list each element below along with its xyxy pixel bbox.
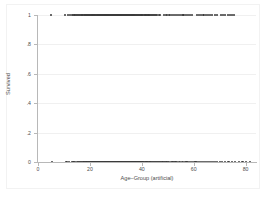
gridline-y-1 <box>38 133 256 134</box>
gridline-y-2 <box>38 103 256 104</box>
y-tick-label-3: .6 <box>9 71 31 77</box>
x-tick-label-4: 80 <box>236 166 256 172</box>
x-tick-label-1: 20 <box>80 166 100 172</box>
gridline-y-4 <box>38 44 256 45</box>
y-tick-mark-4 <box>34 44 37 45</box>
x-tick-label-3: 60 <box>184 166 204 172</box>
y-axis-title: Survived <box>5 49 11 119</box>
y-tick-mark-2 <box>34 103 37 104</box>
plot-area <box>38 15 256 162</box>
y-axis-line <box>37 15 38 163</box>
y-tick-mark-5 <box>34 15 37 16</box>
y-tick-label-4: .8 <box>9 41 31 47</box>
gridline-y-3 <box>38 74 256 75</box>
x-tick-label-2: 40 <box>132 166 152 172</box>
y-tick-label-1: .2 <box>9 130 31 136</box>
y-tick-label-5: 1 <box>9 12 31 18</box>
y-tick-label-2: .4 <box>9 100 31 106</box>
x-axis-line <box>37 162 257 163</box>
x-axis-title: Age–Group (artificial) <box>38 175 256 181</box>
y-tick-mark-0 <box>34 162 37 163</box>
y-tick-mark-3 <box>34 74 37 75</box>
x-tick-label-0: 0 <box>28 166 48 172</box>
y-tick-label-0: 0 <box>9 159 31 165</box>
figure-container: 0.2.4.6.81 020406080 Age–Group (artifici… <box>0 0 268 201</box>
y-tick-mark-1 <box>34 133 37 134</box>
